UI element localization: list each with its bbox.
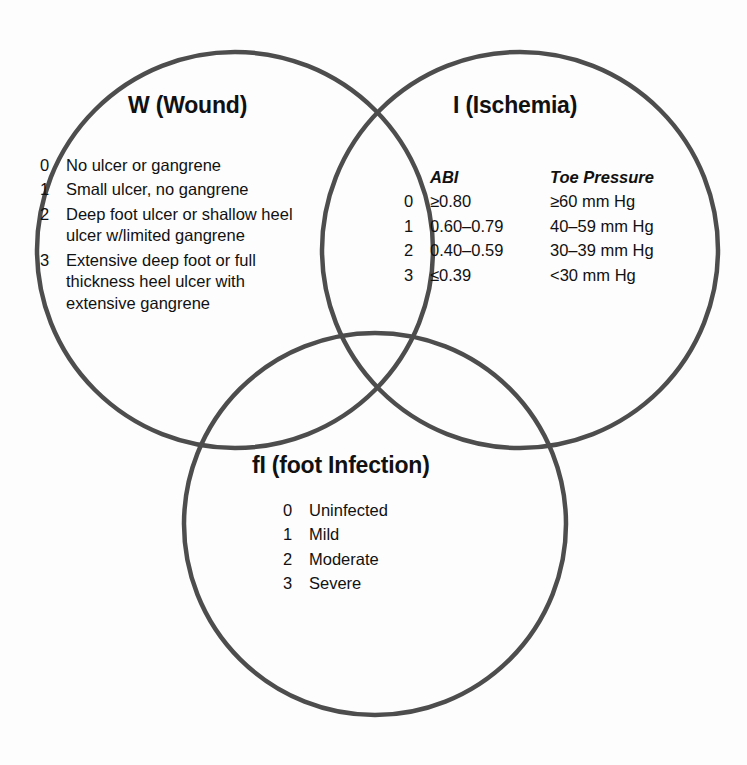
wound-grade-list: 0 No ulcer or gangrene 1 Small ulcer, no… bbox=[40, 155, 340, 317]
table-row: 1 Mild bbox=[283, 524, 489, 548]
ischemia-grade-number: 2 bbox=[404, 240, 430, 264]
infection-grade-number: 1 bbox=[283, 524, 309, 548]
wound-title: W (Wound) bbox=[128, 92, 247, 119]
table-row: 1 0.60–0.79 40–59 mm Hg bbox=[404, 216, 654, 240]
table-row: 3 Extensive deep foot or full thickness … bbox=[40, 250, 316, 317]
ischemia-grade-table: ABI Toe Pressure 0 ≥0.80 ≥60 mm Hg 1 0.6… bbox=[404, 167, 654, 289]
ischemia-abi-value: 0.40–0.59 bbox=[430, 240, 550, 264]
wound-grade-label: No ulcer or gangrene bbox=[66, 155, 316, 179]
ischemia-grade-list: ABI Toe Pressure 0 ≥0.80 ≥60 mm Hg 1 0.6… bbox=[404, 167, 694, 289]
wound-grade-table: 0 No ulcer or gangrene 1 Small ulcer, no… bbox=[40, 155, 316, 317]
ischemia-grade-number: 3 bbox=[404, 265, 430, 289]
wound-grade-label: Small ulcer, no gangrene bbox=[66, 179, 316, 203]
wound-grade-label: Extensive deep foot or full thickness he… bbox=[66, 250, 316, 317]
ischemia-title: I (Ischemia) bbox=[453, 92, 577, 119]
table-row: 2 Deep foot ulcer or shallow heel ulcer … bbox=[40, 204, 316, 250]
infection-grade-number: 2 bbox=[283, 549, 309, 573]
wound-grade-label: Deep foot ulcer or shallow heel ulcer w/… bbox=[66, 204, 316, 250]
figure-canvas: W (Wound) 0 No ulcer or gangrene 1 Small… bbox=[0, 0, 747, 765]
table-row: 3 Severe bbox=[283, 573, 489, 597]
infection-grade-number: 0 bbox=[283, 500, 309, 524]
wound-grade-number: 0 bbox=[40, 155, 66, 179]
infection-grade-label: Uninfected bbox=[309, 500, 489, 524]
ischemia-toe-pressure-value: 40–59 mm Hg bbox=[550, 216, 654, 240]
wound-grade-number: 3 bbox=[40, 250, 66, 317]
ischemia-grade-number: 1 bbox=[404, 216, 430, 240]
ischemia-toe-pressure-value: <30 mm Hg bbox=[550, 265, 654, 289]
table-row: 2 0.40–0.59 30–39 mm Hg bbox=[404, 240, 654, 264]
infection-grade-list: 0 Uninfected 1 Mild 2 Moderate 3 Severe bbox=[283, 500, 513, 598]
wound-grade-number: 1 bbox=[40, 179, 66, 203]
table-row: 2 Moderate bbox=[283, 549, 489, 573]
ischemia-header-grade bbox=[404, 167, 430, 191]
infection-grade-label: Severe bbox=[309, 573, 489, 597]
ischemia-grade-number: 0 bbox=[404, 191, 430, 215]
ischemia-header-abi: ABI bbox=[430, 167, 550, 191]
table-row: 0 Uninfected bbox=[283, 500, 489, 524]
infection-title: fI (foot Infection) bbox=[252, 452, 430, 479]
infection-grade-number: 3 bbox=[283, 573, 309, 597]
ischemia-abi-value: ≥0.80 bbox=[430, 191, 550, 215]
ischemia-toe-pressure-value: ≥60 mm Hg bbox=[550, 191, 654, 215]
wound-grade-number: 2 bbox=[40, 204, 66, 250]
ischemia-abi-value: 0.60–0.79 bbox=[430, 216, 550, 240]
table-header-row: ABI Toe Pressure bbox=[404, 167, 654, 191]
ischemia-header-toe-pressure: Toe Pressure bbox=[550, 167, 654, 191]
table-row: 0 ≥0.80 ≥60 mm Hg bbox=[404, 191, 654, 215]
ischemia-abi-value: ≤0.39 bbox=[430, 265, 550, 289]
ischemia-toe-pressure-value: 30–39 mm Hg bbox=[550, 240, 654, 264]
venn-circles bbox=[0, 0, 747, 765]
table-row: 0 No ulcer or gangrene bbox=[40, 155, 316, 179]
infection-grade-table: 0 Uninfected 1 Mild 2 Moderate 3 Severe bbox=[283, 500, 489, 598]
table-row: 3 ≤0.39 <30 mm Hg bbox=[404, 265, 654, 289]
infection-grade-label: Moderate bbox=[309, 549, 489, 573]
table-row: 1 Small ulcer, no gangrene bbox=[40, 179, 316, 203]
infection-grade-label: Mild bbox=[309, 524, 489, 548]
